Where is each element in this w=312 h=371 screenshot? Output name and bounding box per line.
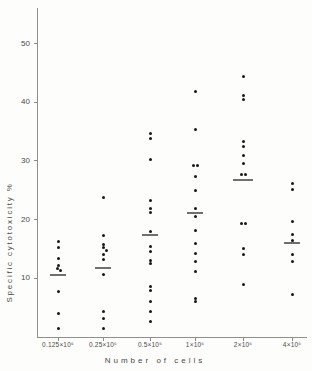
data-point	[149, 245, 152, 248]
data-point	[194, 300, 197, 303]
data-point	[240, 173, 243, 176]
data-point	[291, 253, 294, 256]
data-point	[149, 137, 152, 140]
data-point	[149, 300, 152, 303]
data-point	[242, 145, 245, 148]
mean-bar	[50, 274, 66, 276]
x-tick-label: 2×10⁶	[218, 341, 268, 348]
data-point	[194, 242, 197, 245]
x-tick-label: 4×10⁶	[267, 341, 312, 348]
data-point	[149, 207, 152, 210]
data-point	[291, 260, 294, 263]
data-point	[242, 283, 245, 286]
data-point	[242, 75, 245, 78]
y-axis-tick	[34, 43, 38, 44]
data-point	[291, 188, 294, 191]
data-point	[242, 154, 245, 157]
y-axis-line	[37, 8, 38, 338]
data-point	[194, 252, 197, 255]
data-point	[59, 269, 62, 272]
data-point	[291, 233, 294, 236]
data-point	[149, 320, 152, 323]
data-point	[57, 257, 60, 260]
x-axis-title: Number of cells	[60, 356, 250, 365]
data-point	[194, 207, 197, 210]
data-point	[57, 290, 60, 293]
data-point	[196, 164, 199, 167]
x-tick-label: 0.25×10⁶	[78, 341, 128, 348]
data-point	[291, 239, 294, 242]
y-axis-title: Specific cytotoxicity %	[5, 154, 16, 332]
y-tick-label: 40	[12, 97, 30, 106]
data-point	[149, 211, 152, 214]
data-point	[194, 128, 197, 131]
data-point	[102, 317, 105, 320]
y-axis-tick	[34, 102, 38, 103]
x-axis-line	[37, 337, 307, 338]
data-point	[149, 230, 152, 233]
data-point	[194, 90, 197, 93]
data-point	[57, 312, 60, 315]
data-point	[102, 258, 105, 261]
data-point	[149, 262, 152, 265]
data-point	[242, 162, 245, 165]
data-point	[194, 260, 197, 263]
data-point	[240, 222, 243, 225]
data-point	[57, 327, 60, 330]
data-point	[149, 289, 152, 292]
data-point	[149, 132, 152, 135]
data-point	[149, 250, 152, 253]
data-point	[102, 273, 105, 276]
data-point	[192, 164, 195, 167]
x-tick-label: 0.5×10⁶	[125, 341, 175, 348]
data-point	[194, 175, 197, 178]
data-point	[102, 253, 105, 256]
data-point	[149, 285, 152, 288]
x-tick-label: 1×10⁶	[170, 341, 220, 348]
data-point	[149, 310, 152, 313]
data-point	[244, 222, 247, 225]
data-point	[194, 215, 197, 218]
data-point	[149, 199, 152, 202]
data-point	[242, 94, 245, 97]
scatter-figure: 10203040500.125×10⁶0.25×10⁶0.5×10⁶1×10⁶2…	[0, 0, 312, 371]
data-point	[291, 293, 294, 296]
y-axis-tick	[34, 219, 38, 220]
data-point	[242, 98, 245, 101]
data-point	[105, 249, 108, 252]
data-point	[57, 246, 60, 249]
data-point	[102, 327, 105, 330]
data-point	[102, 196, 105, 199]
x-tick-label: 0.125×10⁶	[33, 341, 83, 348]
y-axis-tick	[34, 160, 38, 161]
mean-bar	[95, 267, 111, 269]
mean-bar	[142, 234, 158, 236]
data-point	[57, 240, 60, 243]
data-point	[291, 182, 294, 185]
y-tick-label: 50	[12, 39, 30, 48]
mean-bar	[187, 212, 203, 214]
data-point	[242, 253, 245, 256]
data-point	[149, 158, 152, 161]
data-point	[194, 189, 197, 192]
data-point	[102, 310, 105, 313]
y-axis-tick	[34, 278, 38, 279]
data-point	[194, 270, 197, 273]
data-point	[244, 173, 247, 176]
data-point	[242, 247, 245, 250]
mean-bar	[284, 242, 300, 244]
data-point	[102, 246, 105, 249]
mean-bar	[233, 179, 253, 181]
data-point	[242, 140, 245, 143]
data-point	[194, 229, 197, 232]
data-point	[291, 220, 294, 223]
data-point	[102, 234, 105, 237]
